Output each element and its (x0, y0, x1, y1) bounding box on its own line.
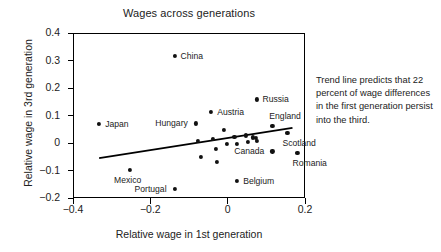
x-tick-label: −0.4 (53, 203, 93, 215)
y-tick-label: 0.3 (20, 54, 60, 66)
point-label-japan: Japan (105, 119, 128, 129)
point-label-china: China (181, 51, 203, 61)
y-tick-label: 0.1 (20, 109, 60, 121)
x-tick-label: 0 (208, 203, 248, 215)
point-label-portugal: Portugal (135, 184, 167, 194)
point-label-canada: Canada (234, 146, 264, 156)
x-tick-label: −0.2 (130, 203, 170, 215)
page-title: Wages across generations (73, 7, 305, 19)
point-label-belgium: Belgium (243, 176, 274, 186)
point-label-austria: Austria (217, 107, 244, 117)
trend-annotation: Trend line predicts that 22 percent of w… (316, 74, 438, 127)
point-label-england: England (269, 111, 301, 121)
y-tick-label: −0.2 (20, 191, 60, 203)
y-tick-label: −0.1 (20, 164, 60, 176)
chart-page: Wages across generations Relative wage i… (0, 0, 441, 252)
y-tick-label: 0.2 (20, 81, 60, 93)
y-tick-label: 0 (20, 136, 60, 148)
y-tick-label: 0.4 (20, 26, 60, 38)
point-label-russia: Russia (263, 94, 289, 104)
point-label-scotland: Scotland (282, 138, 315, 148)
x-tick-label: 0.2 (285, 203, 325, 215)
plot-area: JapanMexicoChinaPortugalHungaryAustriaRu… (73, 33, 305, 198)
point-label-romania: Romania (292, 158, 326, 168)
x-axis-label: Relative wage in 1st generation (73, 228, 305, 240)
point-label-hungary: Hungary (155, 118, 187, 128)
